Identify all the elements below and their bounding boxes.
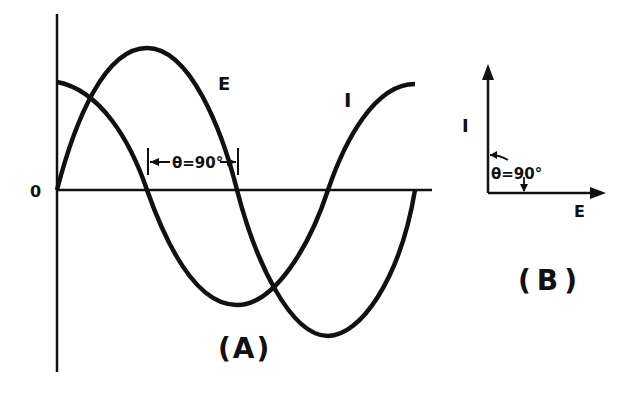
e-curve	[57, 48, 415, 336]
phase-diagram: θ=90° 0 E I (A) θ=90° I E (B)	[0, 0, 642, 399]
phase-label-a: θ=90°	[172, 154, 223, 172]
origin-label: 0	[30, 182, 41, 201]
i-vector-label: I	[462, 115, 469, 136]
vector-diagram-b: θ=90°	[482, 64, 606, 199]
angle-label-b: θ=90°	[491, 165, 542, 183]
e-vector-label: E	[574, 202, 585, 221]
e-vector-arrowhead	[590, 187, 606, 199]
i-curve-label: I	[344, 88, 351, 112]
caption-a: (A)	[218, 332, 271, 365]
caption-b: (B)	[518, 264, 583, 297]
e-curve-label: E	[218, 73, 230, 94]
i-vector-arrowhead	[482, 64, 494, 80]
